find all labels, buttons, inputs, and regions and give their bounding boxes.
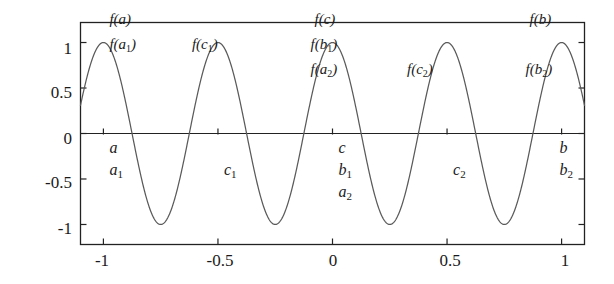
x-point-label-a2: a2 — [339, 184, 353, 200]
y-tick-label-neg1: -1 — [12, 220, 72, 237]
y-tick-label-neg0_5: -0.5 — [12, 174, 72, 191]
x-point-label-c2: c2 — [453, 162, 466, 178]
x-tick-label-0_5: 0.5 — [417, 252, 483, 269]
y-tick-label-0: 0 — [20, 130, 72, 147]
value-label-fc: f(c) — [315, 12, 336, 27]
x-point-label-b: b — [560, 140, 568, 156]
x-tick-label-1: 1 — [535, 252, 595, 269]
x-point-label-c1: c1 — [224, 162, 237, 178]
figure-container: 1 0.5 0 -0.5 -1 -1 -0.5 0 0.5 1 aa1c1cb1… — [0, 0, 614, 284]
x-point-label-a1: a1 — [109, 162, 123, 178]
value-label-fb1: f(b1) — [311, 37, 338, 52]
value-label-fa2: f(a2) — [311, 62, 338, 77]
x-tick-label-0: 0 — [303, 252, 363, 269]
y-tick-label-1: 1 — [20, 40, 72, 57]
x-axis-ticks — [103, 239, 561, 245]
value-label-fb: f(b) — [530, 12, 552, 27]
x-tick-label-neg0_5: -0.5 — [187, 252, 253, 269]
x-point-label-b2: b2 — [560, 162, 574, 178]
y-tick-label-0_5: 0.5 — [20, 84, 72, 101]
value-label-fc2: f(c2) — [407, 62, 433, 77]
value-label-fb2: f(b2) — [526, 62, 553, 77]
value-label-fc1: f(c1) — [192, 37, 218, 52]
value-label-fa1: f(a1) — [109, 37, 136, 52]
value-label-fa: f(a) — [109, 12, 131, 27]
plot-canvas — [0, 0, 614, 284]
x-point-label-c: c — [339, 140, 346, 156]
x-point-label-b1: b1 — [339, 162, 353, 178]
x-point-label-a: a — [109, 140, 117, 156]
x-tick-label-neg1: -1 — [72, 252, 132, 269]
